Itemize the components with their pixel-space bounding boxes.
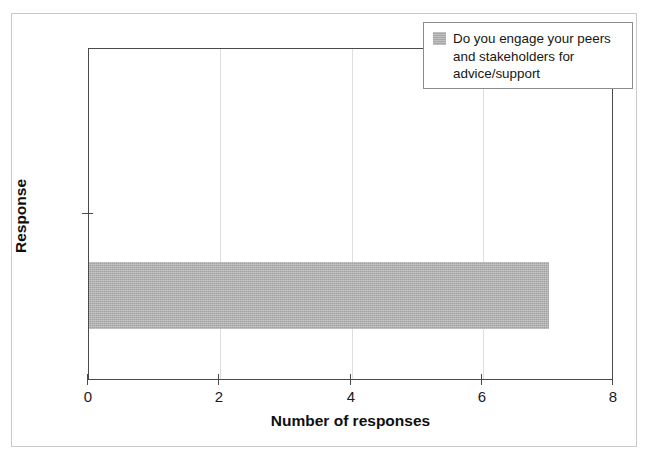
plot-area [88,48,613,380]
bar-chart-figure: 0 2 4 6 8 No Yes Number of responses Res… [0,0,649,464]
gridline-x-4 [352,49,353,379]
gridline-x-2 [220,49,221,379]
ytick-boundary [82,213,93,214]
y-axis-title: Response [12,121,30,311]
xtick-6 [481,374,482,385]
legend-entry-label: Do you engage your peers and stakeholder… [453,30,624,83]
xtick-0 [87,374,88,385]
legend-color-swatch [433,32,446,45]
bar-yes[interactable] [89,262,549,329]
chart-legend: Do you engage your peers and stakeholder… [423,22,633,89]
xtick-4 [350,374,351,385]
xticklabel-0: 0 [68,388,108,406]
xticklabel-6: 6 [462,388,502,406]
xtick-2 [218,374,219,385]
gridline-x-6 [483,49,484,379]
xticklabel-8: 8 [593,388,633,406]
x-axis-title: Number of responses [88,412,613,430]
xticklabel-4: 4 [331,388,371,406]
xticklabel-2: 2 [199,388,239,406]
xtick-8 [612,374,613,385]
